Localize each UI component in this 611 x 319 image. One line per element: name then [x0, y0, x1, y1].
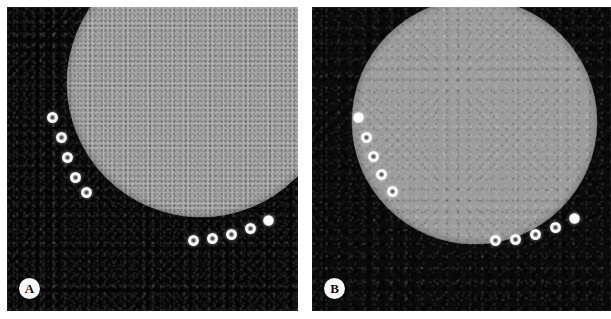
seed-marker	[510, 234, 521, 245]
seed-marker	[56, 132, 67, 143]
seed-marker	[245, 223, 256, 234]
panel-a: A	[7, 7, 298, 311]
seed-marker	[81, 187, 92, 198]
panel-label-b: B	[324, 278, 345, 299]
seed-marker	[47, 112, 58, 123]
seed-marker	[490, 235, 501, 246]
seed-marker	[70, 172, 81, 183]
seed-marker	[387, 186, 398, 197]
seed-marker	[376, 169, 387, 180]
seed-marker	[569, 213, 580, 224]
seed-marker	[188, 235, 199, 246]
seed-marker	[368, 151, 379, 162]
seed-marker	[207, 233, 218, 244]
phantom-disc-b	[352, 7, 597, 244]
seed-marker	[550, 222, 561, 233]
seed-marker	[353, 112, 364, 123]
figure-container: A B	[0, 0, 611, 319]
seed-marker	[62, 152, 73, 163]
seed-marker	[361, 132, 372, 143]
panel-label-a: A	[19, 278, 40, 299]
seed-marker	[226, 229, 237, 240]
seed-marker	[263, 215, 274, 226]
panel-b: B	[312, 7, 611, 311]
seed-marker	[530, 229, 541, 240]
